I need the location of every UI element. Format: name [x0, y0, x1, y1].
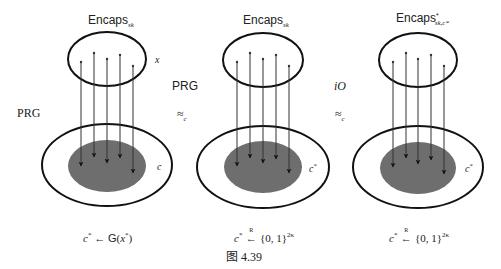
- indistinguishable-relation-1: ≈c: [177, 108, 187, 123]
- indistinguishable-relation-2: ≈c: [335, 108, 345, 123]
- panel-3-formula: c* R← {0, 1}2κ: [389, 232, 449, 244]
- transition-label-prg-left: PRG: [17, 107, 40, 119]
- transition-label-prg: PRG: [172, 80, 198, 92]
- panel-3: [353, 33, 483, 208]
- panel-1-formula: c* ← G(x*): [83, 232, 132, 244]
- panel-2: [197, 33, 329, 208]
- panel-1: [42, 32, 172, 206]
- set-label-c: c: [157, 162, 161, 172]
- transition-label-io: iO: [334, 80, 346, 92]
- panel-3-title: Encaps*sk,c*: [396, 12, 449, 27]
- figure-caption: 图 4.39: [226, 251, 262, 263]
- panel-2-formula: c* R← {0, 1}2κ: [234, 232, 294, 244]
- set-label-c-star-2: c*: [309, 163, 316, 174]
- set-label-x: x: [155, 55, 159, 65]
- set-label-c-star-3: c*: [465, 163, 472, 174]
- panel-1-title: Encapssk: [88, 14, 134, 29]
- panel-2-title: Encapssk: [243, 14, 289, 29]
